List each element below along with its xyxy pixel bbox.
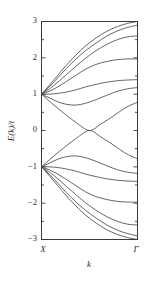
- y-axis-label-group: E(k)/t: [6, 120, 16, 142]
- y-tick-label: −3: [28, 233, 37, 243]
- band-structure-chart: 3210−1−2−3 E(k)/t k X Γ: [0, 0, 149, 282]
- y-axis-label: E(k)/t: [6, 120, 16, 142]
- y-tick-label: 2: [33, 52, 37, 62]
- y-tick-label: 3: [33, 15, 37, 25]
- y-tick-label: −1: [28, 161, 37, 171]
- y-tick-label: 0: [33, 124, 37, 134]
- x-axis-left-endpoint-label: X: [39, 244, 46, 254]
- y-tick-label: 1: [33, 88, 37, 98]
- band-structure-figure: 3210−1−2−3 E(k)/t k X Γ: [0, 0, 149, 282]
- x-axis-right-endpoint-label: Γ: [132, 244, 139, 254]
- y-tick-label: −2: [28, 197, 37, 207]
